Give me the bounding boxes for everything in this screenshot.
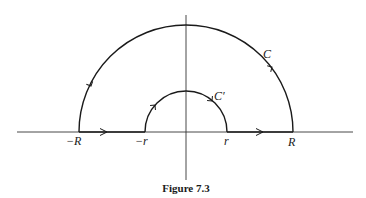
figure-caption: Figure 7.3 [162, 182, 210, 194]
label-C-prime: C′ [214, 89, 225, 103]
label-C: C [263, 47, 272, 61]
label-r: r [224, 134, 229, 148]
label-neg-r: −r [135, 134, 148, 148]
label-neg-R: −R [66, 134, 82, 148]
label-R: R [287, 135, 296, 149]
arrow-ccw-icon [267, 64, 274, 72]
contour-figure: −R −r r R C C′ Figure 7.3 [0, 0, 366, 198]
